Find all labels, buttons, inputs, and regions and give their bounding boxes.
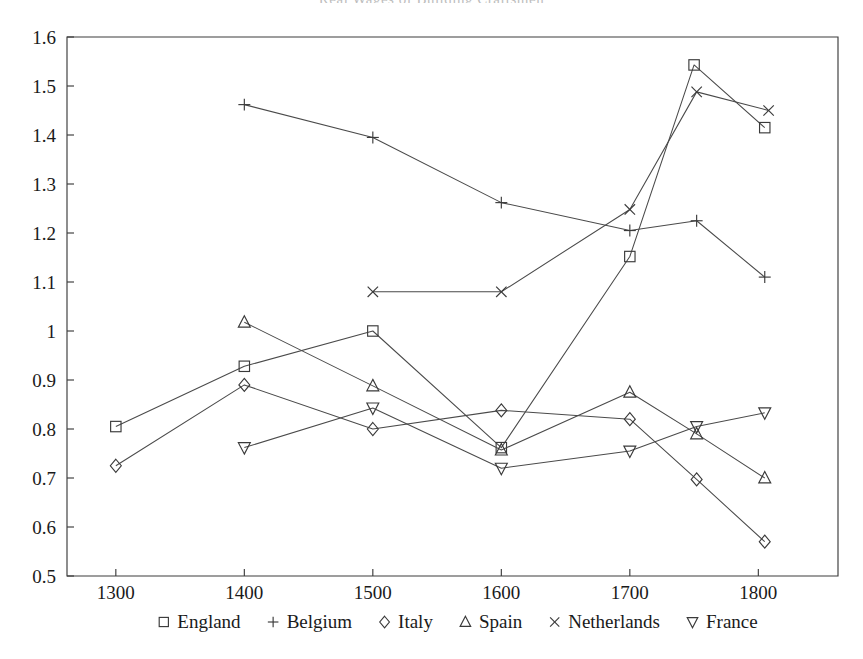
y-tick-label: 0.7 (32, 468, 56, 489)
y-tick-label: 1.3 (32, 174, 56, 195)
legend-item-netherlands[interactable]: Netherlands (550, 611, 660, 632)
data-point-marker (759, 535, 770, 548)
series-england (111, 60, 770, 453)
plot-border (67, 37, 838, 576)
series-line (244, 105, 764, 277)
legend-label: France (706, 611, 758, 632)
legend-item-england[interactable]: England (159, 611, 241, 632)
legend-label: Italy (398, 611, 433, 632)
legend-marker-triangle-up (460, 616, 471, 626)
y-tick-label: 1.5 (32, 76, 56, 97)
y-tick-label: 0.9 (32, 370, 56, 391)
data-point-marker (238, 443, 250, 454)
y-tick-label: 0.5 (32, 566, 56, 587)
series-line (116, 385, 765, 542)
x-tick-label: 1700 (611, 582, 649, 603)
data-point-marker (238, 316, 250, 327)
legend-label: Belgium (287, 611, 353, 632)
line-chart: 0.50.60.70.80.911.11.21.31.41.51.6130014… (0, 0, 863, 659)
x-tick-label: 1300 (97, 582, 135, 603)
series-belgium (238, 99, 770, 283)
legend-marker-square (159, 617, 168, 626)
data-point-marker (367, 379, 379, 390)
x-tick-label: 1500 (354, 582, 392, 603)
x-tick-label: 1800 (739, 582, 777, 603)
series-italy (110, 378, 770, 548)
data-point-marker (759, 472, 771, 483)
legend-label: England (177, 611, 241, 632)
legend-label: Netherlands (568, 611, 660, 632)
axis-ticks (67, 37, 758, 576)
data-point-marker (495, 463, 507, 474)
y-tick-label: 0.6 (32, 517, 56, 538)
legend-item-spain[interactable]: Spain (460, 611, 523, 632)
series-line (116, 65, 765, 448)
clipped-chart-title: Real Wages of Building Craftsmen (0, 0, 863, 3)
chart-legend[interactable]: EnglandBelgiumItalySpainNetherlandsFranc… (159, 611, 758, 632)
axes (67, 37, 838, 576)
y-tick-label: 1.4 (32, 125, 56, 146)
y-tick-label: 0.8 (32, 419, 56, 440)
y-tick-label: 1 (47, 321, 57, 342)
y-tick-label: 1.1 (32, 272, 56, 293)
chart-figure: Real Wages of Building Craftsmen 0.50.60… (0, 0, 863, 659)
legend-label: Spain (479, 611, 523, 632)
series-line (244, 408, 764, 468)
legend-marker-triangle-down (687, 618, 698, 628)
series-spain (238, 316, 770, 483)
y-tick-label: 1.2 (32, 223, 56, 244)
legend-item-france[interactable]: France (687, 611, 757, 632)
legend-item-italy[interactable]: Italy (380, 611, 434, 632)
axis-tick-labels: 0.50.60.70.80.911.11.21.31.41.51.6130014… (32, 27, 777, 604)
y-tick-label: 1.6 (32, 27, 56, 48)
legend-item-belgium[interactable]: Belgium (268, 611, 352, 632)
series-line (373, 92, 769, 292)
series-netherlands (368, 87, 774, 297)
data-series (110, 60, 773, 548)
x-tick-label: 1400 (225, 582, 263, 603)
x-tick-label: 1600 (482, 582, 520, 603)
legend-marker-diamond (380, 616, 390, 628)
